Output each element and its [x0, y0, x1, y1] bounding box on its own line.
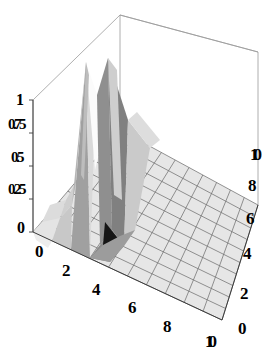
- x-tick-label-4: 4: [92, 281, 101, 298]
- x-tick-label-0: 0: [35, 243, 44, 260]
- surface-plot-canvas: [0, 0, 274, 353]
- z-tick-label-0-5: 0.5: [11, 150, 22, 165]
- z-axis-ticks: [29, 100, 33, 232]
- z-tick-label-0: 0: [17, 220, 25, 236]
- surface-plot-figure: 1 0.75 0.5 0.25 0 0 2 4 6 8 10 10 8 6 4 …: [0, 0, 274, 353]
- x-tick-label-2: 2: [62, 262, 71, 279]
- y-tick-label-2: 2: [240, 285, 249, 302]
- z-tick-label-1: 1: [16, 92, 24, 108]
- y-tick-label-0: 0: [238, 320, 247, 337]
- x-tick-label-8: 8: [163, 318, 172, 335]
- y-tick-label-6: 6: [246, 210, 255, 227]
- z-tick-label-0-25: 0.25: [8, 182, 24, 197]
- y-tick-label-10: 10: [250, 146, 257, 163]
- x-tick-label-6: 6: [128, 299, 137, 316]
- y-tick-label-4: 4: [243, 245, 252, 262]
- x-tick-label-10: 10: [205, 333, 212, 350]
- y-tick-label-8: 8: [248, 177, 257, 194]
- z-tick-label-0-75: 0.75: [8, 117, 24, 132]
